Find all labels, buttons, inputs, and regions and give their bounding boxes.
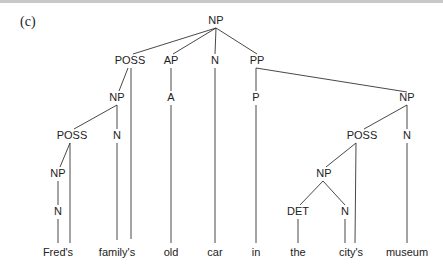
node-n-fred: N bbox=[54, 205, 62, 217]
node-poss: POSS bbox=[115, 54, 146, 66]
node-n-city: N bbox=[341, 205, 349, 217]
figure-label: (c) bbox=[20, 14, 36, 30]
node-np-family: NP bbox=[109, 91, 124, 103]
word-car: car bbox=[207, 246, 223, 258]
node-np-fred: NP bbox=[50, 167, 65, 179]
node-a: A bbox=[167, 91, 175, 103]
node-pp: PP bbox=[250, 54, 265, 66]
leaf-words: Fred's family's old car in the city's mu… bbox=[43, 246, 428, 258]
node-np-museum: NP bbox=[399, 91, 414, 103]
syntax-tree-diagram: (c) bbox=[0, 0, 443, 270]
node-p: P bbox=[252, 91, 259, 103]
tree-nodes: NP POSS AP N PP NP A P NP POSS N POSS N … bbox=[50, 14, 414, 217]
node-poss-fred: POSS bbox=[57, 129, 88, 141]
word-the: the bbox=[290, 246, 305, 258]
node-np-root: NP bbox=[208, 14, 223, 26]
word-museum: museum bbox=[386, 246, 428, 258]
node-np-city: NP bbox=[316, 167, 331, 179]
node-n-family: N bbox=[113, 129, 121, 141]
node-n-museum: N bbox=[403, 129, 411, 141]
word-familys: family's bbox=[99, 246, 136, 258]
word-old: old bbox=[164, 246, 179, 258]
node-ap: AP bbox=[164, 54, 179, 66]
node-poss-city: POSS bbox=[347, 129, 378, 141]
word-citys: city's bbox=[339, 246, 364, 258]
word-in: in bbox=[252, 246, 261, 258]
word-freds: Fred's bbox=[43, 246, 74, 258]
node-n-car: N bbox=[211, 54, 219, 66]
node-det: DET bbox=[287, 205, 309, 217]
